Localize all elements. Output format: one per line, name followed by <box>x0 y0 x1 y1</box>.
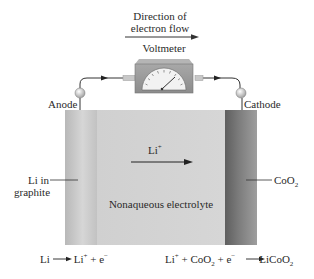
electrolyte-label: Nonaqueous electrolyte <box>97 198 225 210</box>
electrolyte-region <box>97 110 225 245</box>
wire-arrow-right <box>214 76 221 81</box>
voltmeter-connector-right <box>195 76 203 81</box>
direction-label-line1: Direction of <box>110 10 210 22</box>
voltmeter-label: Voltmeter <box>120 42 208 54</box>
cathode-label: Cathode <box>244 98 281 110</box>
anode-label: Anode <box>48 98 77 110</box>
electron-icon-anode <box>75 88 85 98</box>
voltmeter-connector-left <box>123 76 135 81</box>
voltmeter-icon <box>135 59 193 93</box>
anode-strip <box>65 110 97 245</box>
anode-material-line2: graphite <box>14 186 50 198</box>
cathode-strip <box>225 110 257 245</box>
cathode-material-label: CoO2 <box>274 174 298 186</box>
electron-icon-cathode <box>236 88 246 98</box>
direction-label-line2: electron flow <box>110 22 210 34</box>
li-ion-label: Li+ <box>148 144 162 156</box>
anode-reaction: LiLi+ + e− <box>40 253 108 265</box>
cathode-reaction: Li+ + CoO2 + e−LiCoO2 <box>165 253 293 265</box>
wire-arrow-left <box>101 76 108 81</box>
anode-material-label: Li in graphite <box>14 174 50 198</box>
anode-material-line1: Li in <box>14 174 50 186</box>
electron-flow-arrow <box>125 34 199 40</box>
direction-label: Direction of electron flow <box>110 10 210 34</box>
